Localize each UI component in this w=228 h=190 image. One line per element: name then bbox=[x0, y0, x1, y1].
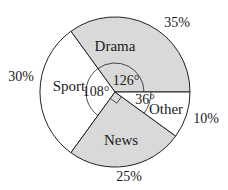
angle-label-sport: 108° bbox=[83, 84, 110, 99]
angle-label-other: 36° bbox=[135, 92, 155, 107]
label-drama: Drama bbox=[95, 38, 136, 54]
pct-label-news: 25% bbox=[116, 169, 142, 184]
pct-label-drama: 35% bbox=[164, 15, 190, 30]
label-sport: Sport bbox=[53, 78, 86, 94]
pct-label-sport: 30% bbox=[8, 69, 34, 84]
pct-label-other: 10% bbox=[193, 111, 219, 126]
angle-label-drama: 126° bbox=[113, 73, 140, 88]
pie-chart: Drama Sport News Other 126° 108° 36° 35%… bbox=[0, 0, 228, 190]
label-news: News bbox=[104, 132, 138, 148]
